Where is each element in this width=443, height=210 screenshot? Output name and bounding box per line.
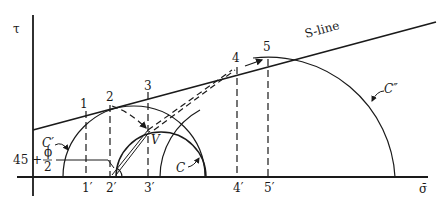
proj-1-label: 1′ [82,181,93,195]
point-4-label: 4 [232,51,240,65]
c-prime-leader [55,144,68,150]
circle-c-double-prime [253,57,395,177]
proj-5-label: 5′ [264,181,275,195]
c-leader [188,158,199,167]
proj-3-label: 3′ [144,181,155,195]
point-5-label: 5 [263,40,271,54]
c-label: C [176,161,185,175]
point-1-label: 1 [80,97,88,111]
c-double-prime-label: C″ [384,82,398,96]
angle-prefix: 45 + [13,153,42,167]
mohr-diagram: τ σ̄ S-line 1 2 3 4 5 1′ 2′ 3′ 4′ 5′ V C… [0,0,443,210]
circle-c [116,132,206,177]
arrow-4-to-5 [245,60,262,66]
point-3-label: 3 [144,79,152,93]
c-double-prime-leader [372,91,384,101]
s-line-label: S-line [303,18,341,41]
tau-label: τ [13,22,20,36]
angle-denominator: 2 [44,160,52,174]
s-line [33,22,436,130]
stress-path [112,70,235,130]
projection-lines [86,59,268,177]
proj-4-label: 4′ [233,181,244,195]
proj-2-label: 2′ [106,181,117,195]
pole-v-label: V [151,133,161,147]
point-2-label: 2 [106,90,114,104]
angle-numerator: ϕ [44,145,52,159]
sigma-label: σ̄ [419,182,427,196]
